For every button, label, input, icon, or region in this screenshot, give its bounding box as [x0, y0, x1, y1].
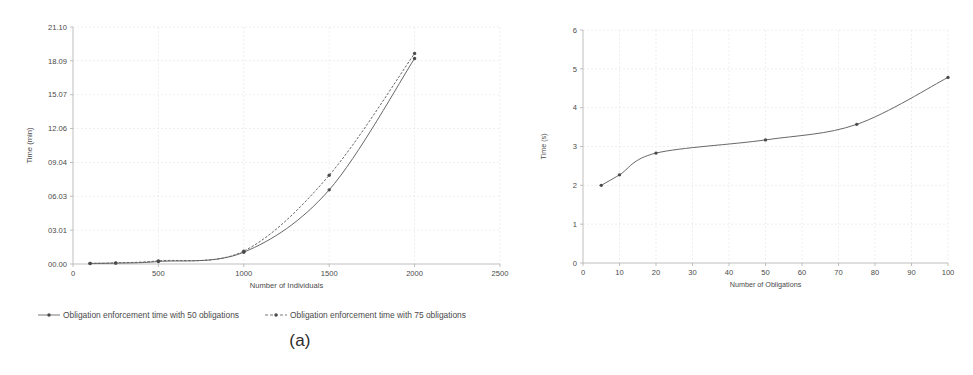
svg-text:1000: 1000 — [235, 269, 252, 278]
svg-text:60: 60 — [798, 268, 806, 277]
svg-text:80: 80 — [871, 268, 879, 277]
svg-text:1: 1 — [573, 220, 577, 229]
svg-text:2500: 2500 — [492, 269, 509, 278]
svg-text:90: 90 — [907, 268, 915, 277]
svg-text:1500: 1500 — [321, 269, 338, 278]
svg-text:2: 2 — [573, 181, 577, 190]
svg-text:18.09: 18.09 — [48, 57, 67, 66]
svg-text:03.01: 03.01 — [48, 226, 67, 235]
svg-text:12.06: 12.06 — [48, 124, 67, 133]
svg-text:0: 0 — [71, 269, 75, 278]
svg-text:2000: 2000 — [406, 269, 423, 278]
svg-text:100: 100 — [942, 268, 955, 277]
legend-marker-dashed-icon — [265, 311, 287, 319]
svg-text:0: 0 — [573, 259, 577, 268]
svg-text:Number of Individuals: Number of Individuals — [250, 281, 324, 290]
legend-label-75-obligations: Obligation enforcement time with 75 obli… — [290, 311, 466, 319]
svg-text:20: 20 — [652, 268, 660, 277]
svg-text:10: 10 — [615, 268, 623, 277]
svg-text:500: 500 — [152, 269, 165, 278]
svg-text:Time (s): Time (s) — [539, 133, 548, 159]
line-chart-a: 00.0003.0106.0309.0412.0615.0718.0921.10… — [0, 0, 520, 300]
svg-text:Number of Obligations: Number of Obligations — [730, 280, 802, 289]
svg-text:3: 3 — [573, 142, 577, 151]
legend-marker-solid-icon — [38, 311, 60, 319]
chart-panel-a: 00.0003.0106.0309.0412.0615.0718.0921.10… — [0, 0, 520, 375]
line-chart-b: 01234560102030405060708090100Number of O… — [520, 0, 973, 300]
svg-text:Time (min): Time (min) — [25, 127, 34, 163]
legend-item-50-obligations: Obligation enforcement time with 50 obli… — [38, 311, 239, 319]
chart-a-legend: Obligation enforcement time with 50 obli… — [38, 305, 518, 325]
svg-text:09.04: 09.04 — [48, 158, 67, 167]
svg-text:06.03: 06.03 — [48, 192, 67, 201]
figure-container: 00.0003.0106.0309.0412.0615.0718.0921.10… — [0, 0, 973, 375]
subfigure-caption-a: (a) — [0, 331, 600, 351]
legend-label-50-obligations: Obligation enforcement time with 50 obli… — [63, 311, 239, 319]
svg-text:21.10: 21.10 — [48, 23, 67, 32]
svg-text:6: 6 — [573, 26, 577, 35]
svg-text:0: 0 — [581, 268, 585, 277]
svg-text:50: 50 — [761, 268, 769, 277]
svg-text:00.00: 00.00 — [48, 260, 67, 269]
legend-item-75-obligations: Obligation enforcement time with 75 obli… — [265, 311, 466, 319]
svg-text:15.07: 15.07 — [48, 90, 67, 99]
svg-text:70: 70 — [834, 268, 842, 277]
svg-text:40: 40 — [725, 268, 733, 277]
svg-text:4: 4 — [573, 103, 577, 112]
svg-text:5: 5 — [573, 65, 577, 74]
chart-panel-b: 01234560102030405060708090100Number of O… — [520, 0, 973, 375]
svg-text:30: 30 — [688, 268, 696, 277]
